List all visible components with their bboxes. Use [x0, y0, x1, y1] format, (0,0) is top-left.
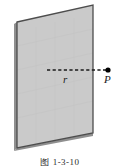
figure-caption: 图 1-3-10 [0, 158, 120, 167]
point-label-p: P [104, 74, 111, 85]
figure-graphic [0, 0, 120, 168]
distance-label-r: r [63, 74, 67, 85]
field-point-dot [105, 67, 110, 72]
figure-container: r P 图 1-3-10 [0, 0, 120, 168]
